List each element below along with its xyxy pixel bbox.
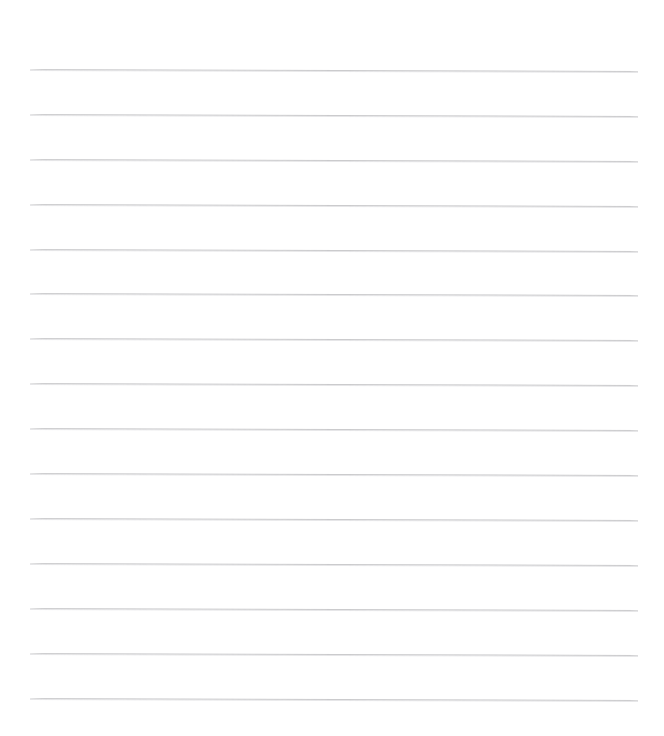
ruled-line: [30, 653, 638, 656]
ruled-line: [30, 293, 638, 296]
page-canvas: [0, 0, 664, 736]
ruled-line: [30, 159, 638, 162]
ruled-line: [30, 249, 638, 252]
ruled-line: [30, 608, 638, 611]
ruled-line: [30, 428, 638, 431]
ruled-line: [30, 518, 638, 521]
ruled-line: [30, 204, 638, 207]
ruled-line: [30, 698, 638, 701]
ruled-line: [30, 563, 638, 566]
ruled-paper-sheet[interactable]: [0, 0, 664, 736]
ruled-line: [30, 338, 638, 341]
ruled-line: [30, 473, 638, 476]
ruled-line: [30, 69, 638, 72]
ruled-line: [30, 114, 638, 117]
ruled-line: [30, 383, 638, 386]
